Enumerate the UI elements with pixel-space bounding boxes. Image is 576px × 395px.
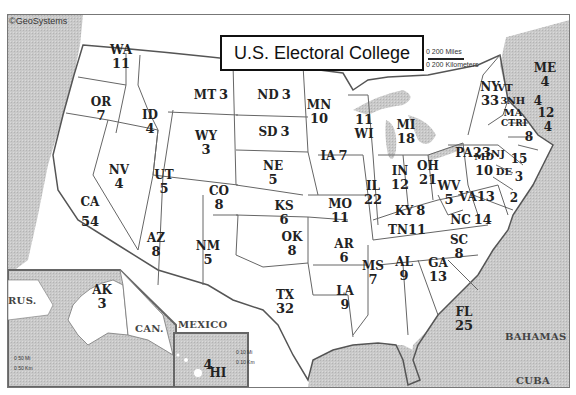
state-az[interactable]: AZ8 [147, 231, 165, 259]
state-sc[interactable]: SC8 [450, 233, 468, 261]
state-wy[interactable]: WY3 [195, 129, 217, 157]
state-nc[interactable]: NC14 [450, 213, 492, 227]
lake-michigan [385, 120, 396, 159]
state-wv[interactable]: WV5 [438, 179, 461, 207]
state-wi[interactable]: 11WI [354, 113, 373, 141]
state-mn[interactable]: MN10 [307, 98, 331, 126]
state-ri[interactable]: RI [515, 116, 527, 130]
state-in[interactable]: IN12 [391, 164, 409, 192]
dc-callout-votes: 2 [510, 191, 518, 205]
alaska-scale: 0 50 Mi 0 50 Km [14, 355, 33, 371]
label-canada: CAN. [135, 323, 164, 334]
state-ma-votes: 12 [538, 106, 555, 120]
state-ne[interactable]: NE5 [263, 159, 283, 187]
scale-miles: 0 200 Miles [426, 48, 479, 55]
state-ca[interactable]: CA54 [81, 195, 100, 229]
state-me[interactable]: ME4 [534, 61, 556, 89]
state-ok[interactable]: OK8 [282, 230, 303, 258]
state-nv[interactable]: NV4 [109, 163, 129, 191]
state-mt[interactable]: MT3 [194, 88, 228, 102]
map-frame: U.S. Electoral College ©GeoSystems 0 200… [7, 14, 570, 388]
state-ri-votes: 4 [544, 120, 552, 134]
state-md[interactable]: MD10 [474, 150, 494, 178]
alaska-scale-km: 0 50 Km [14, 365, 33, 371]
state-nj-votes: 15 [511, 152, 528, 166]
state-al[interactable]: AL9 [395, 255, 413, 283]
state-tx[interactable]: TX32 [276, 288, 294, 316]
state-ky[interactable]: KY8 [395, 204, 426, 218]
alaska-scale-miles: 0 50 Mi [14, 355, 33, 361]
label-russia: RUS. [8, 295, 37, 306]
state-vt[interactable]: VT [497, 81, 512, 95]
state-tn[interactable]: TN11 [388, 223, 426, 237]
state-ks[interactable]: KS6 [274, 199, 293, 227]
gulf-of-mexico [308, 343, 413, 387]
state-de-votes: 3 [515, 170, 523, 184]
hawaii-scale-miles: 0 10 Mi [236, 349, 255, 355]
state-or[interactable]: OR7 [91, 95, 111, 123]
state-ut[interactable]: UT5 [154, 168, 173, 196]
pacific-ocean [8, 15, 83, 275]
label-bahamas: BAHAMAS [505, 331, 567, 342]
state-de[interactable]: DE [496, 165, 512, 179]
state-ms[interactable]: MS7 [362, 259, 384, 287]
state-fl[interactable]: FL25 [455, 305, 473, 333]
scale-bar: 0 200 Miles 0 200 Kilometers [426, 48, 479, 68]
state-wa[interactable]: WA11 [110, 43, 132, 71]
state-nm[interactable]: NM5 [196, 239, 220, 267]
hawaii-scale: 0 10 Mi 0 10 Km [236, 349, 255, 365]
state-ia[interactable]: IA7 [321, 149, 348, 163]
state-sd[interactable]: SD3 [258, 125, 289, 139]
hawaii-scale-km: 0 10 Km [236, 359, 255, 365]
state-id[interactable]: ID4 [142, 108, 158, 136]
label-mexico: MEXICO [178, 319, 228, 330]
state-co[interactable]: CO8 [209, 184, 229, 212]
state-mi[interactable]: MI18 [397, 118, 416, 146]
state-ct-votes: 8 [525, 130, 533, 144]
state-hi[interactable]: HI [210, 366, 227, 380]
scale-bar-line [428, 58, 464, 60]
state-ak[interactable]: AK3 [92, 283, 112, 311]
state-oh[interactable]: OH21 [417, 159, 439, 187]
state-mo[interactable]: MO11 [328, 197, 352, 225]
state-la[interactable]: LA9 [336, 284, 354, 312]
state-va[interactable]: VA13 [459, 190, 495, 204]
state-ct[interactable]: CT [501, 116, 515, 130]
copyright: ©GeoSystems [9, 16, 67, 26]
state-nd[interactable]: ND3 [257, 88, 290, 102]
state-ar[interactable]: AR6 [334, 237, 353, 265]
state-il[interactable]: IL22 [364, 179, 382, 207]
map-title: U.S. Electoral College [220, 35, 424, 71]
state-ga[interactable]: GA13 [428, 256, 448, 284]
scale-km: 0 200 Kilometers [426, 61, 479, 68]
label-cuba: CUBA [516, 375, 550, 386]
